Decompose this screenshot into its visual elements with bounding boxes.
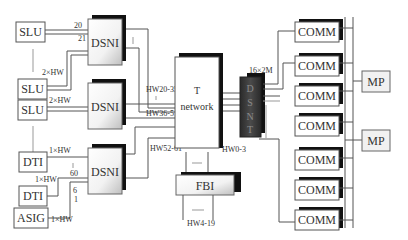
- slu-label: SLU: [19, 25, 42, 39]
- dsni-label: DSNI: [91, 165, 119, 179]
- comm-label: COMM: [298, 213, 336, 227]
- asig-unit: ASIG: [14, 208, 48, 228]
- hw-label-16x2m: 16×2M: [249, 66, 273, 75]
- port-label-6: 6: [73, 186, 77, 195]
- slu-label: SLU: [21, 103, 44, 117]
- hw-label-36-51: HW36-51: [146, 109, 178, 118]
- t-network-label-line1: T: [194, 85, 200, 96]
- comm-unit-3: COMM: [295, 83, 343, 106]
- dti-unit-1: DTI: [19, 152, 47, 172]
- slu-unit-3: SLU: [18, 100, 47, 120]
- hw-label-dti1: 1×HW: [49, 146, 71, 155]
- hw-label-slu3: 2×HW: [49, 96, 71, 105]
- hw-label-0-3: HW0-3: [222, 145, 246, 154]
- mp-unit-2: MP: [362, 130, 390, 151]
- comm-label: COMM: [298, 25, 336, 39]
- port-label-60: 60: [70, 169, 78, 178]
- hw-label-asig: 1×HW: [51, 215, 73, 224]
- port-label-1: 1: [74, 195, 78, 204]
- port-label-20: 20: [74, 21, 82, 30]
- hw-label-4-19: HW4-19: [187, 219, 215, 228]
- comm-label: COMM: [298, 183, 336, 197]
- t-network-label-line2: network: [181, 101, 214, 112]
- comm-unit-5: COMM: [295, 147, 343, 170]
- dsnt-letter: T: [247, 124, 253, 135]
- dti-label: DTI: [23, 189, 43, 203]
- dsni-top: DSNI: [88, 15, 126, 65]
- slu-label: SLU: [21, 82, 44, 96]
- dsnt-unit: D S N T: [240, 73, 265, 137]
- mp-label: MP: [367, 75, 385, 89]
- comm-label: COMM: [298, 89, 336, 103]
- comm-label: COMM: [298, 59, 336, 73]
- slu-unit-1: SLU: [16, 22, 45, 42]
- slu-unit-2: SLU: [18, 79, 47, 99]
- dsni-label: DSNI: [91, 100, 119, 114]
- fbi-unit: FBI: [176, 172, 241, 195]
- dsni-bottom: DSNI: [88, 144, 126, 194]
- fbi-label: FBI: [196, 179, 215, 193]
- dsnt-letter: N: [246, 111, 253, 122]
- switch-architecture-diagram: SLU SLU SLU DTI DTI ASIG 20 21 2×HW 2×HW…: [0, 0, 408, 240]
- dsni-label: DSNI: [91, 36, 119, 50]
- hw-label-slu2: 2×HW: [42, 68, 64, 77]
- dti-label: DTI: [23, 155, 43, 169]
- t-network: T network: [175, 53, 223, 148]
- comm-label: COMM: [298, 119, 336, 133]
- comm-unit-7: COMM: [295, 207, 343, 230]
- hw-label-20-35: HW20-35: [146, 85, 178, 94]
- comm-label: COMM: [298, 153, 336, 167]
- dsnt-letter: D: [246, 83, 253, 94]
- dsnt-letter: S: [247, 97, 253, 108]
- asig-label: ASIG: [17, 211, 45, 225]
- mp-unit-1: MP: [362, 71, 390, 92]
- port-label-21: 21: [78, 34, 86, 43]
- hw-label-dti2: 1×HW: [35, 175, 57, 184]
- comm-unit-1: COMM: [295, 19, 343, 42]
- comm-unit-6: COMM: [295, 177, 343, 200]
- mp-label: MP: [367, 134, 385, 148]
- comm-unit-4: COMM: [295, 113, 343, 136]
- dsni-middle: DSNI: [88, 79, 126, 129]
- comm-unit-2: COMM: [295, 53, 343, 76]
- dti-unit-2: DTI: [19, 186, 47, 206]
